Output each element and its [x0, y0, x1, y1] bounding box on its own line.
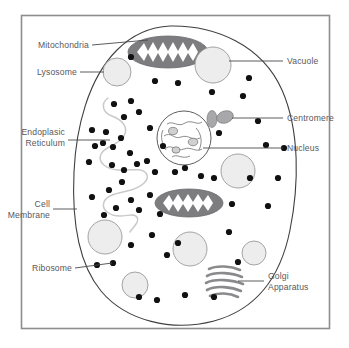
ribosome-dot	[127, 150, 133, 156]
ribosome-dot	[275, 175, 281, 181]
ribosome-dot	[175, 80, 181, 86]
ribosome-dot	[92, 143, 98, 149]
ribosome-dot	[209, 89, 215, 95]
lysosome-body	[103, 58, 131, 86]
vesicle-right-low	[242, 241, 266, 265]
ribosome-dot	[101, 212, 107, 218]
vesicle-bottom-left	[122, 272, 148, 298]
ribosome-dot	[128, 98, 134, 104]
ribosome-dot	[152, 169, 158, 175]
label-endoplasmic-reticulum-line2: Reticulum	[25, 138, 65, 148]
ribosome-dot	[89, 194, 95, 200]
ribosome-dot	[240, 93, 246, 99]
ribosome-dot	[86, 159, 92, 165]
ribosome-dot	[157, 211, 163, 217]
cell-diagram-figure: Mitochondria Lysosome Endoplasic Reticul…	[0, 0, 349, 348]
ribosome-dot	[119, 179, 125, 185]
ribosome-dot	[118, 135, 124, 141]
ribosome-dot	[211, 175, 217, 181]
ribosome-dot	[134, 161, 140, 167]
ribosome-dot	[121, 167, 127, 173]
ribosome-dot	[265, 203, 271, 209]
ribosome-dot	[147, 125, 153, 131]
label-lysosome: Lysosome	[37, 67, 77, 77]
ribosome-dot	[149, 232, 155, 238]
ribosome-dot	[103, 129, 109, 135]
label-mitochondria: Mitochondria	[38, 40, 89, 50]
ribosome-dot	[121, 114, 127, 120]
ribosome-dot	[211, 294, 217, 300]
ribosome-dot	[136, 207, 142, 213]
label-golgi-line2: Apparatus	[268, 282, 309, 292]
label-centromere: Centromere	[287, 113, 334, 123]
ribosome-dot	[128, 54, 134, 60]
ribosome-dot	[154, 297, 160, 303]
ribosome-dot	[255, 118, 261, 124]
vesicle-left-low	[88, 220, 122, 254]
ribosome-dot	[246, 75, 252, 81]
ribosome-dot	[164, 252, 170, 258]
vesicle-center-low	[173, 232, 207, 266]
ribosome-dot	[160, 143, 166, 149]
ribosome-dot	[229, 201, 235, 207]
nucleus	[157, 111, 211, 165]
ribosome-dot	[198, 173, 204, 179]
ribosome-dot	[182, 292, 188, 298]
ribosome-dot	[152, 78, 158, 84]
ribosome-dot	[247, 175, 253, 181]
ribosome-dot	[128, 197, 134, 203]
label-vacuole: Vacuole	[287, 56, 319, 66]
ribosome-dot	[147, 192, 153, 198]
ribosome-dot	[263, 142, 269, 148]
ribosome-dot	[144, 158, 150, 164]
label-cell-membrane-line1: Cell	[35, 199, 50, 209]
label-endoplasmic-reticulum-line1: Endoplasic	[21, 127, 65, 137]
ribosome-dot	[175, 240, 181, 246]
ribosome-dot	[110, 144, 116, 150]
ribosome-dot	[111, 101, 117, 107]
label-golgi-line1: Golgi	[268, 271, 289, 281]
cell-diagram-canvas: Mitochondria Lysosome Endoplasic Reticul…	[0, 0, 349, 348]
ribosome-dot	[106, 187, 112, 193]
label-nucleus: Nucleus	[287, 143, 319, 153]
ribosome-dot	[216, 130, 222, 136]
ribosome-dot	[226, 229, 232, 235]
ribosome-dot	[89, 127, 95, 133]
ribosome-dot	[113, 205, 119, 211]
vesicle-right-mid	[221, 154, 255, 188]
ribosome-dot	[100, 140, 106, 146]
ribosome-dot	[235, 259, 241, 265]
ribosome-dot	[109, 162, 115, 168]
label-ribosome: Ribosome	[32, 263, 72, 273]
ribosome-dot	[182, 165, 188, 171]
label-cell-membrane-line2: Membrane	[8, 210, 50, 220]
ribosome-dot	[128, 242, 134, 248]
vacuole-body	[195, 47, 231, 83]
mitochondrion-center	[155, 189, 223, 217]
ribosome-dot	[136, 109, 142, 115]
ribosome-dot	[136, 294, 142, 300]
ribosome-dot	[172, 169, 178, 175]
